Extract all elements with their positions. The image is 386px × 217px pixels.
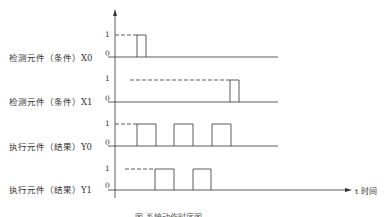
x-axis-label: t 时间	[355, 185, 377, 196]
signal-label-x0: 检测元件（条件）X0	[9, 51, 92, 63]
tick-y0-high: 1	[105, 119, 110, 128]
signal-label-y0: 执行元件（结果）Y0	[9, 140, 92, 152]
x-axis-arrow-icon	[345, 188, 352, 192]
signal-label-x1: 检测元件（条件）X1	[9, 95, 92, 107]
tick-x0-high: 1	[105, 30, 110, 39]
y-axis-arrow-icon	[113, 9, 117, 16]
timing-diagram: 检测元件（条件）X0 1 0 检测元件（条件）X1 1 0 执行元件（结果）Y0…	[0, 0, 386, 217]
tick-y1-high: 1	[105, 164, 110, 173]
signal-label-y1: 执行元件（结果）Y1	[9, 183, 92, 195]
tick-x1-high: 1	[105, 74, 110, 83]
tick-y0-low: 0	[105, 138, 110, 147]
tick-y1-low: 0	[105, 181, 110, 190]
figure-caption: 图 系统动作时序图	[135, 211, 202, 217]
tick-x0-low: 0	[105, 49, 110, 58]
tick-x1-low: 0	[105, 94, 110, 103]
